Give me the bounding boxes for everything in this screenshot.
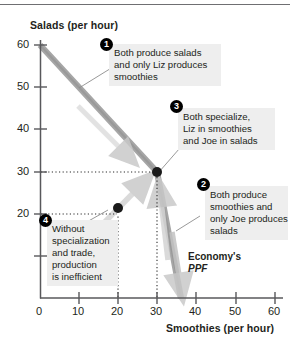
callout-2-line-1: Both produce [210, 189, 284, 201]
x-tick-label-10: 10 [72, 305, 84, 317]
x-tick-label-50: 50 [229, 305, 241, 317]
ppf-series-label-line-1: Economy's [188, 251, 241, 263]
callout-2: Both produce smoothies and only Joe prod… [205, 186, 288, 240]
x-axis-title: Smoothies (per hour) [166, 322, 274, 334]
callout-1-badge: 1 [100, 38, 113, 51]
callout-1-line-1: Both produce salads [114, 47, 217, 59]
inefficient-point [113, 203, 123, 213]
ppf-series-label: Economy's PPF [188, 251, 241, 275]
x-tick-label-0: 0 [36, 305, 42, 317]
callout-3-line-3: and Joe in salads [183, 135, 271, 147]
y-tick-label-30: 30 [17, 165, 29, 177]
callout-1-line-3: smoothies [114, 71, 217, 83]
callout-2-line-4: salads [210, 225, 284, 237]
callout-3-badge: 3 [170, 100, 183, 113]
y-tick-label-40: 40 [17, 122, 29, 134]
x-tick-label-60: 60 [268, 305, 280, 317]
callout-4-line-1: Without [52, 223, 114, 235]
callout-4: Without specialization and trade, produc… [47, 220, 118, 286]
callout-4-badge: 4 [39, 214, 52, 227]
x-tick-label-30: 30 [150, 305, 162, 317]
leader-2 [176, 216, 200, 231]
ppf-figure: Salads (per hour) Smoothies (per hour) 6… [0, 0, 290, 342]
x-tick-label-40: 40 [189, 305, 201, 317]
callout-4-line-3: and trade, [52, 247, 114, 259]
callout-4-line-2: specialization [52, 235, 114, 247]
ppf-series-label-line-2: PPF [188, 263, 241, 275]
y-axis-title: Salads (per hour) [30, 19, 118, 31]
callout-1-line-2: and only Liz produces [114, 59, 217, 71]
callout-3-line-1: Both specialize, [183, 111, 271, 123]
y-tick-label-50: 50 [17, 80, 29, 92]
y-tick-label-20: 20 [17, 207, 29, 219]
callout-4-line-4: production [52, 259, 114, 271]
specialization-point [152, 167, 162, 177]
x-tick-label-20: 20 [111, 305, 123, 317]
callout-3-line-2: Liz in smoothies [183, 123, 271, 135]
callout-2-line-3: only Joe produces [210, 213, 284, 225]
y-tick-label-60: 60 [17, 38, 29, 50]
callout-1: Both produce salads and only Liz produce… [109, 44, 221, 86]
callout-2-line-2: smoothies and [210, 201, 284, 213]
callout-4-line-5: is inefficient [52, 271, 114, 283]
callout-2-badge: 2 [197, 178, 210, 191]
callout-3: Both specialize, Liz in smoothies and Jo… [178, 108, 275, 150]
